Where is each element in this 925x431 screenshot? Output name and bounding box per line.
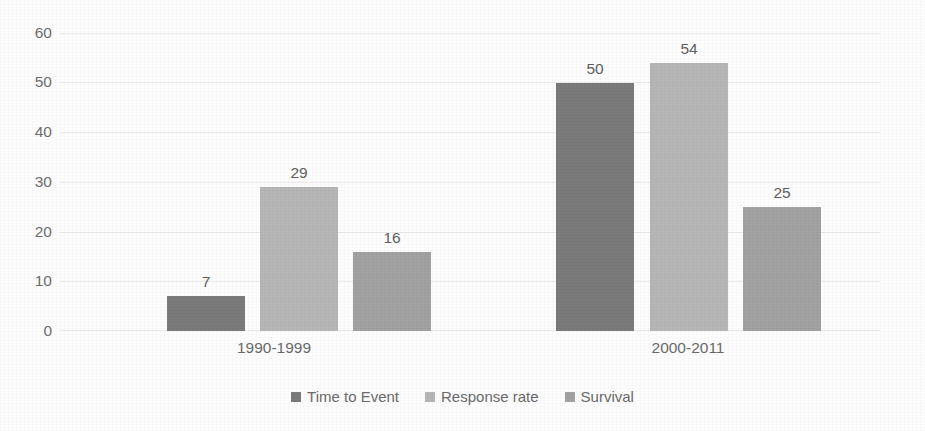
y-axis-labels: 60 50 40 30 20 10 0 [0,0,52,431]
bar-2000-2011-survival[interactable]: 25 [743,207,821,331]
bar-value-label: 25 [773,184,790,202]
legend-swatch-icon [565,392,575,402]
x-category-label-1990-1999: 1990-1999 [237,339,311,357]
gridline-50 [60,82,880,83]
bar-2000-2011-response-rate[interactable]: 54 [650,63,728,331]
bar-chart: 60 50 40 30 20 10 0 7 29 16 50 54 [0,0,925,431]
bar-value-label: 16 [383,229,400,247]
gridline-60 [60,33,880,34]
gridline-40 [60,132,880,133]
gridline-30 [60,182,880,183]
y-tick-10: 10 [0,272,52,290]
bar-value-label: 54 [680,40,697,58]
y-tick-40: 40 [0,123,52,141]
bar-2000-2011-time-to-event[interactable]: 50 [556,83,634,331]
chart-legend: Time to Event Response rate Survival [0,388,925,405]
y-tick-60: 60 [0,24,52,42]
bar-value-label: 29 [290,164,307,182]
y-tick-0: 0 [0,322,52,340]
plot-area: 7 29 16 50 54 25 [60,33,880,331]
y-tick-30: 30 [0,173,52,191]
y-tick-50: 50 [0,73,52,91]
legend-label: Survival [581,388,634,405]
x-category-label-2000-2011: 2000-2011 [652,339,725,357]
legend-item-survival[interactable]: Survival [565,388,634,405]
legend-swatch-icon [291,392,301,402]
legend-item-response-rate[interactable]: Response rate [425,388,539,405]
legend-item-time-to-event[interactable]: Time to Event [291,388,399,405]
bar-1990-1999-time-to-event[interactable]: 7 [167,296,245,331]
legend-label: Time to Event [307,388,399,405]
legend-label: Response rate [441,388,539,405]
y-tick-20: 20 [0,223,52,241]
legend-swatch-icon [425,392,435,402]
bar-value-label: 7 [202,273,211,291]
bar-value-label: 50 [586,60,603,78]
bar-1990-1999-survival[interactable]: 16 [353,252,431,331]
bar-1990-1999-response-rate[interactable]: 29 [260,187,338,331]
